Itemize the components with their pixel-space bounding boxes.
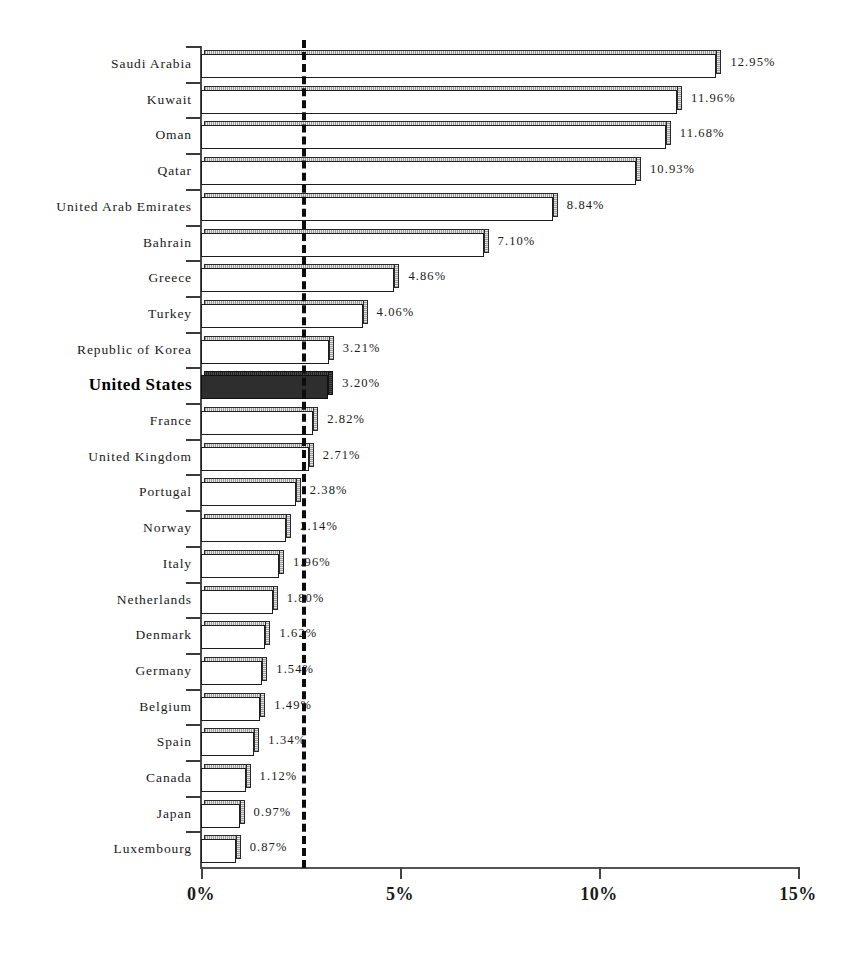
bar-row: United Kingdom2.71% (0, 439, 853, 475)
bar-value-label: 2.82% (327, 407, 365, 431)
bar-value-label: 4.86% (408, 264, 446, 288)
bar-body (201, 518, 286, 542)
category-tick (186, 617, 201, 619)
bar-side-shadow (296, 478, 301, 502)
bar-body (201, 590, 273, 614)
category-tick (186, 474, 201, 476)
bar (201, 371, 334, 399)
bar-body (201, 90, 677, 114)
bar-side-shadow (313, 407, 318, 431)
bar-category-label: Kuwait (0, 82, 192, 118)
bar-side-shadow (309, 443, 314, 467)
bar-value-label: 1.62% (279, 621, 317, 645)
bar-row: Japan0.97% (0, 796, 853, 832)
bar-row: Denmark1.62% (0, 617, 853, 653)
bar-category-label: Denmark (0, 617, 192, 653)
bar-category-label: United Arab Emirates (0, 189, 192, 225)
bar-category-label: Japan (0, 796, 192, 832)
bar-body (201, 268, 394, 292)
bar (201, 193, 559, 221)
bar-value-label: 11.68% (680, 121, 725, 145)
bar-value-label: 3.21% (343, 336, 381, 360)
bar-side-shadow (279, 550, 284, 574)
bar-body (201, 482, 296, 506)
category-tick (186, 724, 201, 726)
bar-value-label: 0.87% (250, 835, 288, 859)
bar-side-shadow (716, 50, 721, 74)
category-tick (186, 296, 201, 298)
bar (201, 693, 266, 721)
category-tick (186, 689, 201, 691)
bar (201, 264, 400, 292)
bar-side-shadow (363, 300, 368, 324)
bar-body (201, 54, 716, 78)
bar-category-label: United Kingdom (0, 439, 192, 475)
bar-side-shadow (246, 764, 251, 788)
bar-row: Norway2.14% (0, 510, 853, 546)
bar-value-label: 1.12% (260, 764, 298, 788)
category-tick (186, 117, 201, 119)
bar-category-label: Canada (0, 760, 192, 796)
bar-category-label: Luxembourg (0, 831, 192, 867)
bar-body (201, 304, 363, 328)
bar (201, 443, 315, 471)
bar-value-label: 4.06% (377, 300, 415, 324)
bar-body (201, 197, 553, 221)
bar-side-shadow (273, 586, 278, 610)
bar-value-label: 7.10% (498, 229, 536, 253)
x-axis-tick (400, 867, 402, 879)
bar-value-label: 1.54% (276, 657, 314, 681)
bar-row: Germany1.54% (0, 653, 853, 689)
bar (201, 586, 279, 614)
category-tick (186, 367, 201, 369)
bar-side-shadow (636, 157, 641, 181)
bar (201, 835, 242, 863)
x-axis-tick (599, 867, 601, 879)
bar-body (201, 804, 240, 828)
bar (201, 728, 260, 756)
category-tick (186, 831, 201, 833)
bar-value-label: 3.20% (342, 371, 380, 395)
bar (201, 621, 271, 649)
bar-value-label: 12.95% (730, 50, 775, 74)
category-tick (186, 546, 201, 548)
bar-category-label: Netherlands (0, 582, 192, 618)
bar (201, 121, 672, 149)
bar-row: United Arab Emirates8.84% (0, 189, 853, 225)
bar-body (201, 661, 262, 685)
bar-category-label: Greece (0, 260, 192, 296)
bar-body (201, 161, 636, 185)
x-axis-tick-label: 15% (738, 884, 853, 905)
bar-body (201, 411, 313, 435)
bar-category-label: Italy (0, 546, 192, 582)
bar (201, 550, 285, 578)
bar-side-shadow (262, 657, 267, 681)
bar-side-shadow (553, 193, 558, 217)
bar-row: Greece4.86% (0, 260, 853, 296)
bar-row: Luxembourg0.87% (0, 831, 853, 867)
category-tick (186, 760, 201, 762)
bar-row: Belgium1.49% (0, 689, 853, 725)
bar-row: Republic of Korea3.21% (0, 332, 853, 368)
bar (201, 478, 302, 506)
bar-side-shadow (240, 800, 245, 824)
x-axis-tick (201, 867, 203, 879)
bar (201, 764, 252, 792)
bar-row: Turkey4.06% (0, 296, 853, 332)
bar-value-label: 0.97% (254, 800, 292, 824)
category-tick (186, 796, 201, 798)
bar-row: United States3.20% (0, 367, 853, 403)
x-axis-tick-label: 5% (340, 884, 460, 905)
bar-category-label: Qatar (0, 153, 192, 189)
bar-row: Kuwait11.96% (0, 82, 853, 118)
bar-category-label: Spain (0, 724, 192, 760)
bar-value-label: 10.93% (650, 157, 695, 181)
reference-line (302, 40, 306, 868)
x-axis-tick-label: 10% (539, 884, 659, 905)
bar-body (201, 447, 309, 471)
bar-category-label: Germany (0, 653, 192, 689)
category-tick (186, 260, 201, 262)
bar (201, 50, 722, 78)
bar-body (201, 768, 246, 792)
bar-side-shadow (254, 728, 259, 752)
